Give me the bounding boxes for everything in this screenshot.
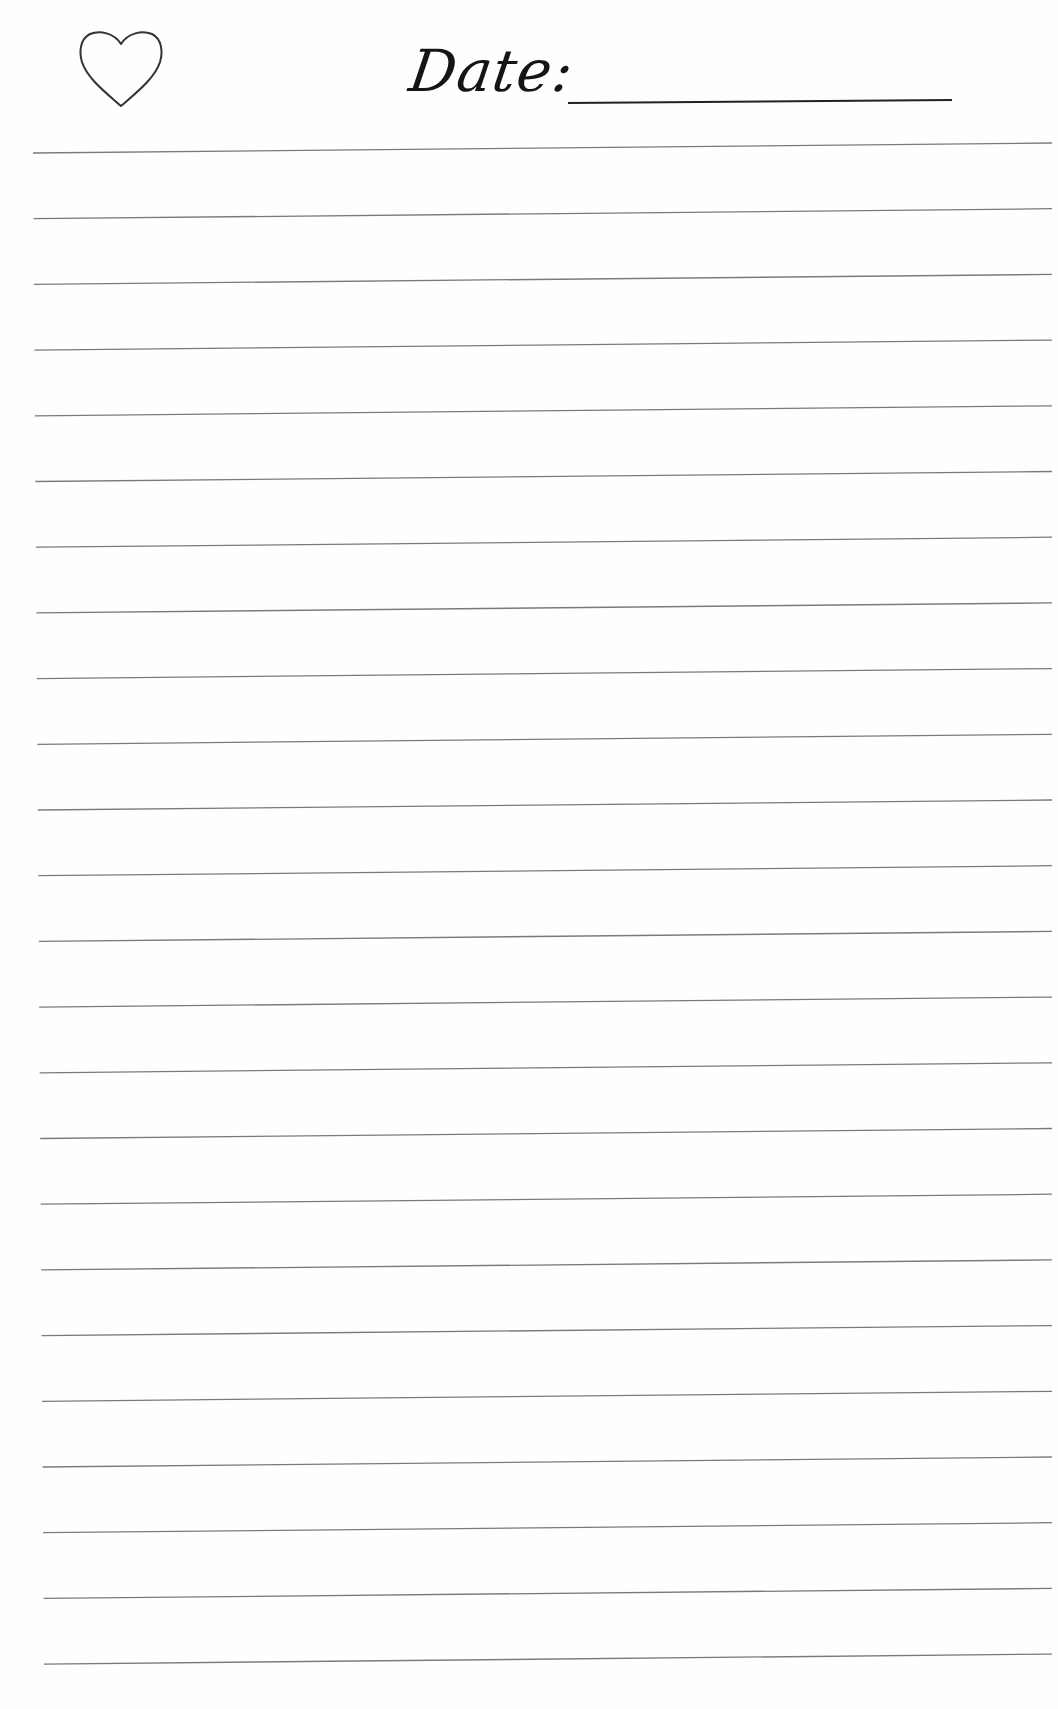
- writing-line[interactable]: [37, 734, 1052, 744]
- writing-line[interactable]: [44, 1588, 1052, 1598]
- writing-line[interactable]: [42, 1326, 1052, 1336]
- writing-line[interactable]: [42, 1391, 1052, 1401]
- ruled-lines: [0, 0, 1058, 1709]
- writing-line[interactable]: [39, 997, 1052, 1007]
- notebook-page: Date:: [0, 0, 1058, 1709]
- writing-line[interactable]: [37, 669, 1052, 679]
- writing-line[interactable]: [34, 209, 1053, 219]
- writing-line[interactable]: [36, 537, 1052, 547]
- writing-line[interactable]: [41, 1260, 1052, 1270]
- writing-line[interactable]: [38, 866, 1052, 876]
- writing-line[interactable]: [43, 1457, 1052, 1467]
- writing-line[interactable]: [33, 143, 1052, 153]
- writing-line[interactable]: [40, 1129, 1052, 1139]
- writing-line[interactable]: [38, 800, 1052, 810]
- writing-line[interactable]: [39, 931, 1052, 941]
- writing-line[interactable]: [35, 406, 1052, 416]
- writing-line[interactable]: [41, 1194, 1052, 1204]
- writing-line[interactable]: [44, 1654, 1052, 1664]
- writing-line[interactable]: [34, 274, 1052, 284]
- writing-line[interactable]: [35, 472, 1052, 482]
- writing-line[interactable]: [43, 1523, 1052, 1533]
- writing-line[interactable]: [40, 1063, 1052, 1073]
- writing-line[interactable]: [34, 340, 1052, 350]
- writing-line[interactable]: [36, 603, 1052, 613]
